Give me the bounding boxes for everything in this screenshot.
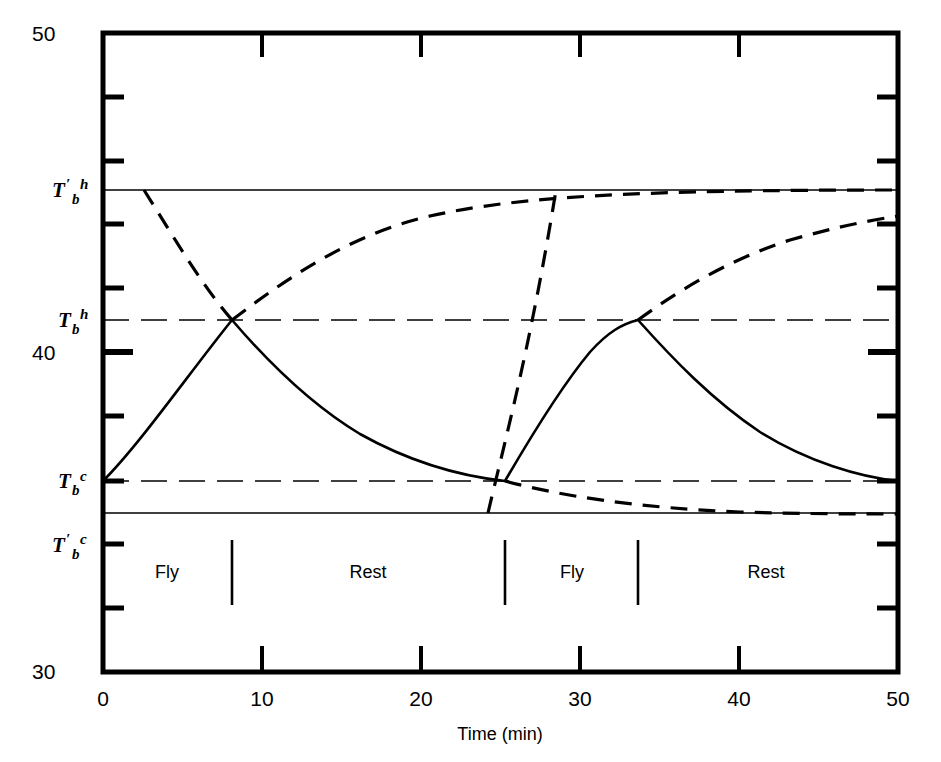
curve-dashed-heating-bout2 xyxy=(488,190,556,513)
curve-dashed-cooling-bout2 xyxy=(505,481,898,514)
y-symbol-label-Tbc: T b c xyxy=(58,468,87,498)
symbol-sub-b-4: b xyxy=(72,546,80,562)
symbol-T-4: T xyxy=(52,533,66,557)
x-axis-label-50: 50 xyxy=(886,687,909,710)
curve-dashed-heating-bout1 xyxy=(232,190,898,320)
x-axis-ticks xyxy=(262,646,739,672)
x-axis-label-40: 40 xyxy=(727,687,750,710)
curve-dashed-cooling-bout1 xyxy=(144,190,232,320)
y-symbol-label-Tbc-prime: T ′ b c xyxy=(52,531,87,562)
phase-label-fly-2: Fly xyxy=(560,562,584,582)
temperature-cycling-chart: Fly Rest Fly Rest 50 40 30 T ′ b h T b h… xyxy=(0,0,941,762)
y-axis-label-30: 30 xyxy=(32,660,55,683)
symbol-T-3: T xyxy=(58,469,72,493)
x-axis-ticks-top xyxy=(262,33,739,57)
phase-label-rest-1: Rest xyxy=(349,562,386,582)
x-axis-label-20: 20 xyxy=(409,687,432,710)
symbol-sup-h-1: h xyxy=(80,176,88,192)
symbol-sub-b-1: b xyxy=(72,191,80,207)
x-axis-label-0: 0 xyxy=(97,687,109,710)
symbol-prime-1: ′ xyxy=(66,176,70,192)
symbol-T-1: T xyxy=(52,178,66,202)
symbol-T-2: T xyxy=(58,308,72,332)
curve-dashed-heating-bout3 xyxy=(638,216,898,320)
x-axis-title: Time (min) xyxy=(457,724,542,744)
y-axis-label-40: 40 xyxy=(32,341,55,364)
figure-root: Fly Rest Fly Rest 50 40 30 T ′ b h T b h… xyxy=(0,0,941,762)
symbol-sup-c-3: c xyxy=(80,468,87,484)
phase-label-rest-2: Rest xyxy=(747,562,784,582)
symbol-sub-b-2: b xyxy=(72,321,80,337)
x-axis-label-30: 30 xyxy=(568,687,591,710)
symbol-sup-h-2: h xyxy=(80,306,88,322)
phase-label-fly-1: Fly xyxy=(155,562,179,582)
x-axis-label-10: 10 xyxy=(250,687,273,710)
y-symbol-label-Tbh: T b h xyxy=(58,306,88,337)
symbol-sup-c-4: c xyxy=(80,531,87,547)
y-axis-label-50: 50 xyxy=(32,22,55,45)
symbol-prime-4: ′ xyxy=(66,531,70,547)
symbol-sub-b-3: b xyxy=(72,482,80,498)
y-symbol-label-Tbh-prime: T ′ b h xyxy=(52,176,88,207)
